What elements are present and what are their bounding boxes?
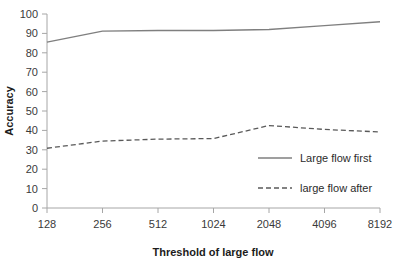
y-axis-tick-label: 80 bbox=[26, 47, 38, 59]
x-axis-tick-label: 2048 bbox=[257, 218, 281, 230]
x-axis-tick-label: 1024 bbox=[201, 218, 225, 230]
y-axis-tick-label: 90 bbox=[26, 27, 38, 39]
x-axis-tick-label: 4096 bbox=[312, 218, 336, 230]
y-axis-title: Accuracy bbox=[3, 85, 15, 135]
y-axis-tick-group: 0102030405060708090100 bbox=[20, 8, 47, 214]
data-series-group bbox=[47, 22, 380, 148]
y-axis-tick-label: 100 bbox=[20, 8, 38, 20]
y-axis-tick-label: 0 bbox=[32, 202, 38, 214]
x-axis-tick-label: 128 bbox=[38, 218, 56, 230]
y-axis-tick-label: 60 bbox=[26, 86, 38, 98]
y-axis-tick-label: 10 bbox=[26, 183, 38, 195]
x-axis-tick-group: 1282565121024204840968192 bbox=[38, 208, 392, 230]
legend-label-1: Large flow first bbox=[300, 152, 372, 164]
y-axis-tick-label: 50 bbox=[26, 105, 38, 117]
series-line-1 bbox=[47, 22, 380, 42]
legend: Large flow firstlarge flow after bbox=[258, 152, 372, 194]
x-axis-tick-label: 256 bbox=[93, 218, 111, 230]
y-axis-tick-label: 30 bbox=[26, 144, 38, 156]
x-axis-title: Threshold of large flow bbox=[152, 246, 273, 258]
line-chart: 0102030405060708090100 12825651210242048… bbox=[0, 0, 402, 269]
y-axis-tick-label: 40 bbox=[26, 124, 38, 136]
series-line-2 bbox=[47, 126, 380, 149]
y-axis-tick-label: 20 bbox=[26, 163, 38, 175]
legend-label-2: large flow after bbox=[300, 182, 372, 194]
x-axis-tick-label: 512 bbox=[149, 218, 167, 230]
x-axis-tick-label: 8192 bbox=[368, 218, 392, 230]
y-axis-tick-label: 70 bbox=[26, 66, 38, 78]
chart-container: 0102030405060708090100 12825651210242048… bbox=[0, 0, 402, 269]
